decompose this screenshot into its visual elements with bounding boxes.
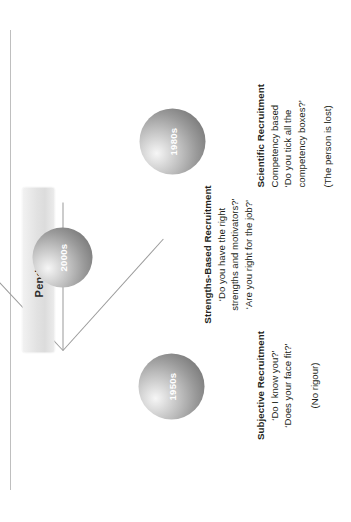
era-sphere-1950s[interactable]: 1950s (138, 353, 204, 419)
era-sphere-1980s[interactable]: 1980s (139, 108, 205, 174)
note-scientific: (The person is lost) (320, 17, 334, 187)
era-sphere-2000s[interactable]: 2000s (32, 227, 92, 287)
text-block-scientific-recruitment: Scientific Recruitment Competency based … (253, 17, 334, 187)
era-sphere-label-2000s: 2000s (57, 243, 68, 271)
line-strengths-1: ‘Do you have the right (214, 156, 228, 352)
text-block-subjective-recruitment: Subjective Recruitment ‘Do I know you?’ … (253, 290, 320, 480)
line-subjective-2: ‘Does your face fit?’ (280, 290, 294, 480)
diagram-canvas: Pendulum 1950s 2000s 1980s Subjective Re… (0, 0, 351, 522)
line-strengths-3: ‘Are you right for the job?’ (241, 156, 255, 352)
line-strengths-2: strengths and motivators?’ (227, 156, 241, 352)
note-subjective: (No rigour) (307, 290, 321, 480)
heading-scientific-recruitment: Scientific Recruitment (253, 17, 267, 187)
line-scientific-1: Competency based (267, 17, 281, 187)
line-scientific-3: competency boxes?’ (294, 17, 308, 187)
heading-subjective-recruitment: Subjective Recruitment (253, 290, 267, 480)
heading-strengths-based-recruitment: Strengths-Based Recruitment (200, 156, 214, 352)
era-sphere-label-1950s: 1950s (166, 372, 177, 400)
text-block-strengths-based-recruitment: Strengths-Based Recruitment ‘Do you have… (200, 156, 254, 352)
line-subjective-1: ‘Do I know you?’ (267, 290, 281, 480)
line-scientific-2: ‘Do you tick all the (280, 17, 294, 187)
era-sphere-label-1980s: 1980s (167, 127, 178, 155)
pendulum-diagram: Pendulum 1950s 2000s 1980s Subjective Re… (0, 0, 351, 522)
